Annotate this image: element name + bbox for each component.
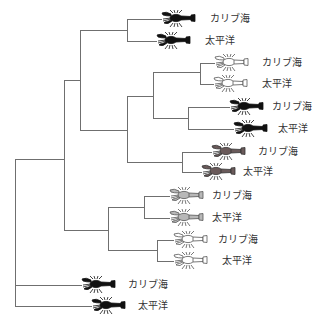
leaf-label: 太平洋 — [222, 255, 252, 267]
leaf-label: 太平洋 — [212, 212, 242, 224]
crayfish-icon — [168, 209, 204, 231]
crayfish-icon — [200, 163, 236, 185]
crayfish-icon — [80, 276, 116, 298]
leaf-label: カリブ海 — [258, 146, 298, 158]
leaf-label: カリブ海 — [212, 190, 252, 202]
leaf-label: 太平洋 — [243, 166, 273, 178]
crayfish-icon — [232, 120, 268, 142]
leaf-label: 太平洋 — [205, 35, 235, 47]
leaf-label: カリブ海 — [210, 13, 250, 25]
leaf-label: 太平洋 — [278, 123, 308, 135]
crayfish-icon — [228, 98, 264, 120]
crayfish-icon — [212, 75, 248, 97]
crayfish-icon — [168, 187, 204, 209]
crayfish-icon — [213, 54, 249, 76]
crayfish-icon — [172, 231, 208, 253]
leaf-label: カリブ海 — [272, 101, 312, 113]
leaf-label: カリブ海 — [218, 234, 258, 246]
crayfish-icon — [155, 32, 191, 54]
leaf-label: カリブ海 — [128, 279, 168, 291]
leaf-label: 太平洋 — [262, 78, 292, 90]
crayfish-icon — [172, 252, 208, 274]
leaf-label: 太平洋 — [138, 300, 168, 312]
crayfish-icon — [160, 10, 196, 32]
crayfish-icon — [90, 297, 126, 319]
leaf-label: カリブ海 — [262, 57, 302, 69]
crayfish-icon — [210, 143, 246, 165]
